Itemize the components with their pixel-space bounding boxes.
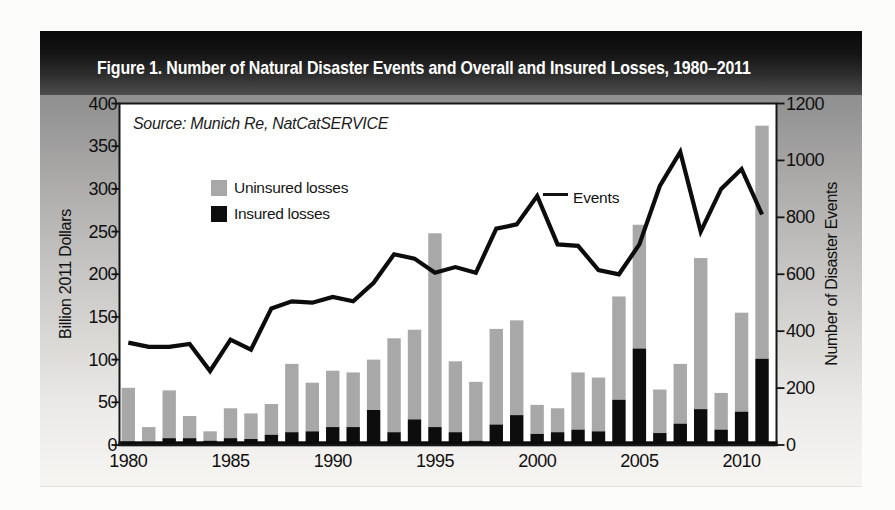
uninsured-bar-2003 — [592, 378, 605, 432]
legend-label-insured: Insured losses — [234, 206, 330, 222]
y-left-tick-label-100: 100 — [88, 350, 117, 370]
uninsured-bar-1981 — [142, 427, 155, 442]
right-axis-title: Number of Disaster Events — [823, 149, 843, 399]
left-axis-title: Billion 2011 Dollars — [57, 149, 77, 399]
uninsured-bar-1983 — [183, 416, 196, 438]
uninsured-bar-1985 — [224, 408, 237, 438]
y-left-tick-label-350: 350 — [88, 136, 117, 156]
x-tick-label-2000: 2000 — [518, 451, 557, 471]
uninsured-swatch-icon — [211, 180, 227, 196]
insured-bar-2005 — [633, 349, 646, 445]
uninsured-bar-1990 — [326, 371, 339, 427]
insured-bar-2010 — [735, 412, 748, 445]
uninsured-bar-1987 — [265, 404, 278, 435]
uninsured-bar-1984 — [203, 431, 216, 440]
uninsured-bar-1998 — [490, 329, 503, 425]
x-tick-label-2010: 2010 — [723, 451, 762, 471]
y-right-tick-label-0: 0 — [786, 435, 796, 455]
x-tick-label-1985: 1985 — [211, 451, 250, 471]
y-left-tick-label-400: 400 — [88, 94, 117, 114]
uninsured-bar-1988 — [285, 364, 298, 432]
x-tick-label-2005: 2005 — [620, 451, 659, 471]
y-left-tick-label-150: 150 — [88, 307, 117, 327]
x-tick-label-1980: 1980 — [109, 451, 148, 471]
uninsured-bar-1994 — [408, 330, 421, 420]
uninsured-bar-2008 — [694, 258, 707, 409]
x-tick-label-1995: 1995 — [416, 451, 455, 471]
y-right-tick-label-800: 800 — [786, 207, 815, 227]
uninsured-bar-2006 — [653, 390, 666, 434]
events-callout-line — [543, 193, 568, 196]
y-left-tick-label-50: 50 — [98, 392, 118, 412]
insured-bar-1999 — [510, 415, 523, 445]
insured-bar-2008 — [694, 409, 707, 445]
y-left-tick-label-200: 200 — [88, 264, 117, 284]
uninsured-bar-2011 — [755, 126, 768, 359]
source-note: Source: Munich Re, NatCatSERVICE — [133, 115, 388, 133]
uninsured-bar-1993 — [387, 338, 400, 432]
chart-canvas: 0501001502002503003504000200400600800100… — [0, 0, 895, 510]
insured-bar-2011 — [755, 359, 768, 445]
insured-bar-1992 — [367, 410, 380, 445]
uninsured-bar-1989 — [306, 383, 319, 432]
events-line-label: Events — [573, 189, 619, 207]
uninsured-bar-1995 — [428, 233, 441, 427]
y-right-tick-label-200: 200 — [786, 378, 815, 398]
legend-item-uninsured: Uninsured losses — [211, 180, 348, 196]
y-left-tick-label-250: 250 — [88, 222, 117, 242]
page: Figure 1. Number of Natural Disaster Eve… — [0, 0, 895, 510]
insured-swatch-icon — [211, 206, 227, 222]
uninsured-bar-2004 — [612, 296, 625, 399]
uninsured-bar-2000 — [530, 405, 543, 434]
legend-item-insured: Insured losses — [211, 206, 330, 222]
y-right-tick-label-600: 600 — [786, 264, 815, 284]
uninsured-bar-1996 — [449, 361, 462, 432]
y-right-tick-label-400: 400 — [786, 321, 815, 341]
uninsured-bar-2002 — [571, 372, 584, 429]
uninsured-bar-1997 — [469, 382, 482, 441]
insured-bar-2004 — [612, 400, 625, 445]
uninsured-bar-1999 — [510, 320, 523, 415]
uninsured-bar-1986 — [244, 413, 257, 439]
uninsured-bar-2009 — [714, 393, 727, 430]
y-right-tick-label-1200: 1200 — [786, 94, 825, 114]
uninsured-bar-2010 — [735, 313, 748, 412]
uninsured-bar-2007 — [674, 364, 687, 424]
uninsured-bar-1991 — [346, 372, 359, 427]
uninsured-bar-1980 — [122, 388, 135, 442]
y-left-tick-label-300: 300 — [88, 179, 117, 199]
y-right-tick-label-1000: 1000 — [786, 150, 825, 170]
x-tick-label-1990: 1990 — [314, 451, 353, 471]
legend-label-uninsured: Uninsured losses — [234, 180, 348, 196]
uninsured-bar-1982 — [162, 390, 175, 438]
uninsured-bar-1992 — [367, 360, 380, 410]
insured-bar-1994 — [408, 419, 421, 445]
uninsured-bar-2001 — [551, 408, 564, 432]
